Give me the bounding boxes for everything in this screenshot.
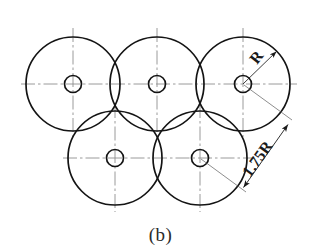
figure-container: R 1.75R (b) — [0, 0, 321, 250]
small-hole-group — [65, 76, 252, 167]
radius-dimension: R — [243, 47, 277, 84]
engineering-drawing-canvas: R 1.75R — [0, 0, 321, 250]
large-circle-group — [26, 37, 290, 205]
extension-line-lower — [201, 159, 246, 192]
center-distance-dimension: 1.75R — [201, 85, 292, 192]
figure-caption: (b) — [0, 224, 321, 246]
extension-line-upper — [244, 85, 292, 120]
